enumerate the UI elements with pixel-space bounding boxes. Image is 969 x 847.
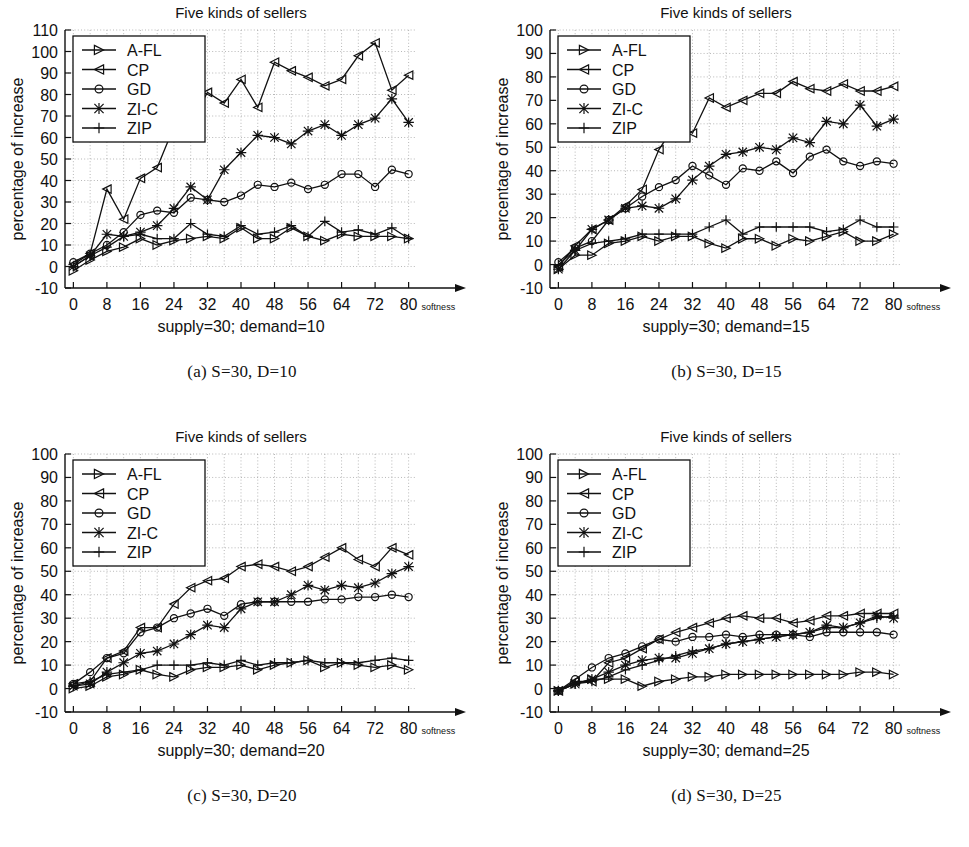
chart-c-plot-area: Five kinds of sellers-100102030405060708… bbox=[7, 424, 477, 784]
marker-plus-glyph bbox=[203, 229, 213, 239]
y-axis-tick-label: 0 bbox=[534, 681, 543, 698]
marker-plus bbox=[152, 234, 162, 244]
x-axis-tick-label: 40 bbox=[232, 720, 250, 737]
x-axis-tick-label: 48 bbox=[750, 720, 768, 737]
y-axis-tick-label: 70 bbox=[40, 516, 58, 533]
x-axis-unit-label: softness bbox=[906, 726, 940, 736]
marker-star-glyph bbox=[303, 580, 314, 590]
x-axis-tick-label: 40 bbox=[717, 720, 735, 737]
marker-plus bbox=[236, 656, 246, 666]
x-axis-arrow-icon bbox=[940, 284, 951, 292]
legend-label-cp: CP bbox=[127, 62, 149, 79]
x-axis-tick-label: 24 bbox=[165, 296, 183, 313]
marker-star-glyph bbox=[169, 639, 180, 649]
x-axis-tick-label: 16 bbox=[616, 720, 634, 737]
chart-title: Five kinds of sellers bbox=[660, 4, 792, 21]
marker-star-glyph bbox=[253, 597, 264, 607]
legend-label-zi-c: ZI-C bbox=[127, 525, 158, 542]
chart-b-svg: Five kinds of sellers-100102030405060708… bbox=[492, 0, 962, 360]
marker-star-glyph bbox=[737, 147, 748, 157]
marker-plus bbox=[771, 222, 781, 232]
x-axis-unit-label: softness bbox=[422, 302, 456, 312]
marker-star bbox=[320, 120, 331, 130]
x-axis-tick-label: 56 bbox=[299, 296, 317, 313]
marker-plus bbox=[370, 229, 380, 239]
marker-plus-glyph bbox=[354, 225, 364, 235]
marker-plus-glyph bbox=[670, 651, 680, 661]
marker-plus-glyph bbox=[387, 223, 397, 233]
marker-star-glyph bbox=[353, 120, 364, 130]
x-axis-tick-label: 72 bbox=[851, 296, 869, 313]
y-axis-tick-label: 0 bbox=[49, 259, 58, 276]
marker-star bbox=[387, 569, 398, 579]
legend-label-cp: CP bbox=[612, 486, 634, 503]
marker-star-glyph bbox=[320, 120, 331, 130]
y-axis-tick-label: 70 bbox=[40, 108, 58, 125]
legend-label-zip: ZIP bbox=[612, 120, 637, 137]
x-axis-tick-label: 8 bbox=[102, 296, 111, 313]
marker-star bbox=[135, 648, 146, 658]
marker-plus-glyph bbox=[754, 222, 764, 232]
x-axis-label: supply=30; demand=25 bbox=[642, 742, 809, 759]
marker-plus-glyph bbox=[169, 660, 179, 670]
y-axis-tick-label: 90 bbox=[525, 45, 543, 62]
marker-left-triangle bbox=[889, 82, 897, 90]
marker-star bbox=[854, 100, 865, 110]
marker-star-glyph bbox=[787, 133, 798, 143]
x-axis-arrow-icon bbox=[455, 708, 466, 716]
marker-star bbox=[236, 604, 247, 614]
marker-star-glyph bbox=[303, 126, 314, 136]
y-axis-tick-label: 70 bbox=[525, 92, 543, 109]
marker-star-glyph bbox=[353, 583, 364, 593]
marker-star bbox=[93, 103, 105, 114]
x-axis-tick-label: 64 bbox=[817, 720, 835, 737]
x-axis-tick-label: 32 bbox=[683, 296, 701, 313]
marker-star-glyph bbox=[269, 132, 280, 142]
marker-plus bbox=[855, 215, 865, 225]
marker-plus-glyph bbox=[654, 656, 664, 666]
marker-star-glyph bbox=[152, 221, 163, 231]
marker-plus-glyph bbox=[152, 234, 162, 244]
marker-star bbox=[303, 580, 314, 590]
marker-star-glyph bbox=[578, 527, 590, 538]
x-axis-tick-label: 24 bbox=[165, 720, 183, 737]
marker-star bbox=[888, 114, 899, 124]
figure-panel-c: Five kinds of sellers-100102030405060708… bbox=[0, 424, 484, 847]
marker-star-glyph bbox=[871, 121, 882, 131]
chart-legend: A-FLCPGDZI-CZIP bbox=[558, 36, 690, 142]
marker-star bbox=[787, 133, 798, 143]
y-axis-tick-label: 100 bbox=[516, 22, 543, 39]
marker-star-glyph bbox=[286, 590, 297, 600]
chart-title: Five kinds of sellers bbox=[175, 4, 307, 21]
x-axis-tick-label: 24 bbox=[650, 720, 668, 737]
marker-star bbox=[269, 132, 280, 142]
x-axis-tick-label: 80 bbox=[884, 720, 902, 737]
legend-label-cp: CP bbox=[612, 62, 634, 79]
marker-left-triangle bbox=[404, 551, 412, 559]
y-axis-tick-label: 30 bbox=[40, 194, 58, 211]
x-axis-tick-label: 48 bbox=[750, 296, 768, 313]
x-axis-label: supply=30; demand=10 bbox=[157, 318, 324, 335]
marker-star bbox=[754, 142, 765, 152]
marker-star-glyph bbox=[202, 195, 213, 205]
legend-label-zi-c: ZI-C bbox=[612, 525, 643, 542]
legend-label-a-fl: A-FL bbox=[127, 466, 162, 483]
marker-star-glyph bbox=[687, 175, 698, 185]
y-axis-label: percentage of increase bbox=[494, 502, 511, 665]
marker-star bbox=[387, 94, 398, 104]
marker-star-glyph bbox=[653, 203, 664, 213]
marker-star bbox=[185, 182, 196, 192]
y-axis-tick-label: 30 bbox=[40, 610, 58, 627]
figure-panel-b: Five kinds of sellers-100102030405060708… bbox=[484, 0, 969, 424]
marker-star bbox=[236, 148, 247, 158]
x-axis-tick-label: 80 bbox=[400, 296, 418, 313]
x-axis-label: supply=30; demand=20 bbox=[157, 742, 324, 759]
marker-star bbox=[821, 116, 832, 126]
y-axis-tick-label: 50 bbox=[525, 139, 543, 156]
marker-star bbox=[578, 103, 590, 114]
marker-star-glyph bbox=[236, 148, 247, 158]
legend-label-gd: GD bbox=[612, 505, 636, 522]
y-axis-tick-label: 110 bbox=[32, 22, 58, 39]
marker-star bbox=[353, 583, 364, 593]
y-axis-tick-label: 100 bbox=[31, 446, 58, 463]
